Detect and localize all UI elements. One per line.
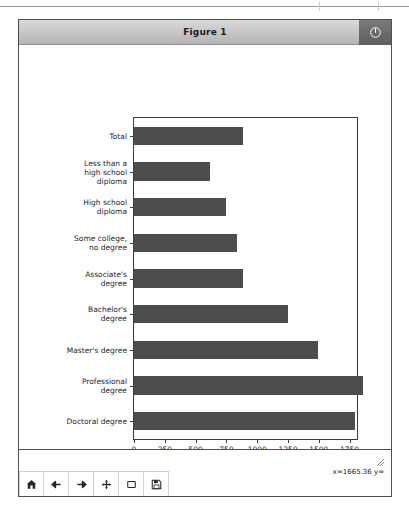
window-title-bar: Figure 1 [19,20,391,45]
figure-window: Figure 1 TotalLess than a high school di… [18,19,392,497]
power-icon[interactable] [359,20,391,45]
window-title: Figure 1 [183,27,227,37]
top-divider [0,6,409,7]
y-axis-tick-label: Some college, no degree [41,234,127,252]
y-axis-tick-label: High school diploma [41,198,127,216]
x-axis-tick [288,439,289,443]
navigation-toolbar [19,471,169,496]
y-axis-tick [130,207,134,208]
bar [134,376,363,395]
top-tick-mark [378,2,379,11]
navigation-toolbar-area: x=1665.36 y= [19,449,391,496]
y-axis-tick-label: Total [41,131,127,140]
rectangle-icon [126,479,137,490]
bar [134,162,210,181]
y-axis-tick [130,136,134,137]
arrow-left-icon [51,479,62,490]
figure-canvas[interactable]: TotalLess than a high school diplomaHigh… [19,45,391,450]
x-axis-tick [226,439,227,443]
bar [134,127,243,146]
home-button[interactable] [19,472,44,496]
x-axis-tick [165,439,166,443]
coordinate-readout: x=1665.36 y= [333,468,384,476]
x-axis-tick [134,439,135,443]
back-button[interactable] [44,472,69,496]
top-tick-mark [319,2,320,11]
bar [134,305,288,324]
y-axis-tick-label: Master's degree [41,345,127,354]
forward-button[interactable] [69,472,94,496]
y-axis-tick-label: Less than a high school diploma [41,158,127,185]
save-button[interactable] [144,472,169,496]
zoom-rect-button[interactable] [119,472,144,496]
y-axis-tick-label: Professional degree [41,377,127,395]
x-axis-tick [350,439,351,443]
x-axis-tick [319,439,320,443]
resize-grip[interactable] [376,452,385,461]
pan-button[interactable] [94,472,119,496]
bar [134,269,243,288]
bar [134,198,226,217]
x-axis-tick [196,439,197,443]
plot-axes: TotalLess than a high school diplomaHigh… [133,117,358,440]
y-axis-tick-label: Associate's degree [41,270,127,288]
bar [134,412,355,431]
floppy-disk-icon [151,479,162,490]
y-axis-tick-label: Doctoral degree [41,417,127,426]
move-arrows-icon [101,479,112,490]
y-axis-tick [130,386,134,387]
home-icon [26,479,37,490]
y-axis-tick-label: Bachelor's degree [41,305,127,323]
y-axis-tick [130,172,134,173]
y-axis-tick [130,279,134,280]
x-axis-tick [257,439,258,443]
bar-series [134,118,357,439]
y-axis-tick [130,243,134,244]
y-axis-tick [130,350,134,351]
arrow-right-icon [76,479,87,490]
bar [134,234,237,253]
bar [134,341,318,360]
y-axis-tick [130,314,134,315]
screenshot-root: Figure 1 TotalLess than a high school di… [0,0,409,515]
y-axis-tick [130,421,134,422]
